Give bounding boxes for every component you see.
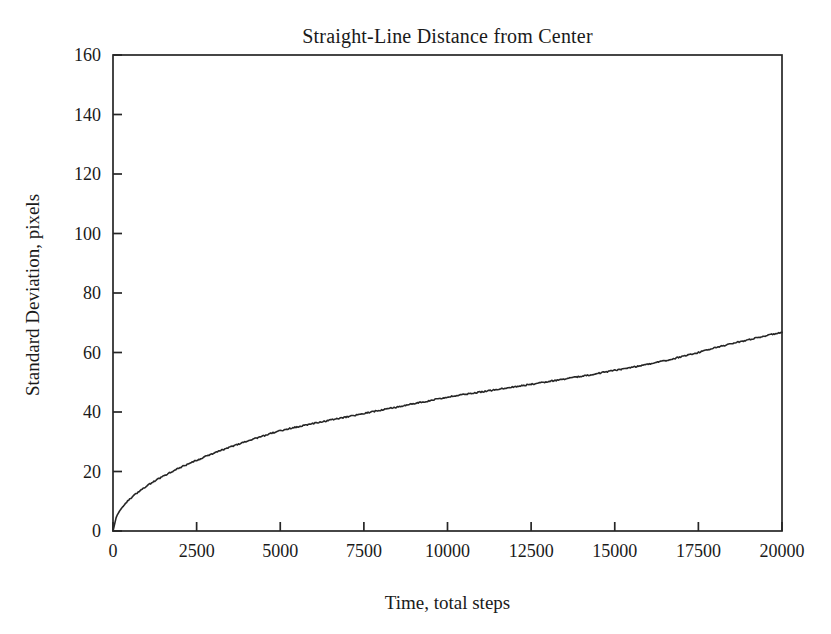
plot-area (0, 0, 831, 634)
y-tick-label: 80 (40, 283, 101, 303)
x-tick-label: 0 (109, 541, 118, 561)
x-tick-label: 17500 (676, 541, 721, 561)
chart-figure: Straight-Line Distance from Center 02040… (0, 0, 831, 634)
y-axis-title-wrapper: Standard Deviation, pixels (21, 57, 45, 533)
y-tick-label: 40 (40, 402, 101, 422)
y-tick-label: 120 (40, 164, 101, 184)
x-tick-label: 12500 (509, 541, 554, 561)
x-tick-label: 5000 (262, 541, 298, 561)
x-tick-label: 2500 (179, 541, 215, 561)
data-series-group (113, 332, 782, 531)
x-tick-label: 15000 (592, 541, 637, 561)
y-tick-label: 100 (40, 224, 101, 244)
y-tick-label: 0 (40, 521, 101, 541)
y-tick-label: 140 (40, 105, 101, 125)
x-axis-title: Time, total steps (113, 592, 782, 614)
y-tick-label: 60 (40, 343, 101, 363)
x-tick-label: 20000 (760, 541, 805, 561)
y-tick-label: 160 (40, 45, 101, 65)
axes-frame (113, 55, 782, 531)
x-tick-label: 7500 (346, 541, 382, 561)
x-tick-label: 10000 (425, 541, 470, 561)
y-axis-title: Standard Deviation, pixels (22, 194, 43, 396)
tick-marks (113, 55, 782, 531)
y-tick-label: 20 (40, 462, 101, 482)
